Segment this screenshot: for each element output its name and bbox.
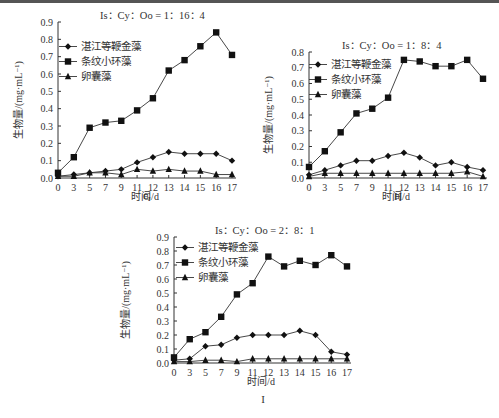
square-marker-icon [197, 43, 203, 49]
chart-i: 0.00.10.20.30.40.50.60.70.80.90357911121… [115, 205, 375, 418]
y-tick-label: 0.2 [157, 330, 170, 341]
square-marker-icon [344, 263, 350, 269]
x-tick-label: 3 [71, 182, 76, 193]
series-triangle [306, 168, 486, 179]
x-tick-label: 3 [322, 182, 327, 193]
triangle-marker-icon [315, 91, 321, 97]
triangle-marker-icon [134, 166, 140, 172]
square-marker-icon [182, 259, 188, 265]
triangle-marker-icon [297, 355, 303, 361]
diamond-marker-icon [480, 167, 486, 173]
triangle-marker-icon [218, 357, 224, 363]
square-marker-icon [249, 280, 255, 286]
x-tick-label: 0 [56, 182, 61, 193]
x-tick-label: 13 [279, 367, 289, 378]
legend-label: 条纹小环藻 [198, 256, 249, 268]
square-marker-icon [86, 125, 92, 131]
square-marker-icon [480, 76, 486, 82]
square-marker-icon [150, 95, 156, 101]
x-tick-label: 9 [119, 182, 124, 193]
diamond-marker-icon [369, 157, 375, 163]
x-tick-label: 15 [195, 182, 205, 193]
square-marker-icon [385, 94, 391, 100]
x-tick-label: 17 [478, 182, 488, 193]
series-line [58, 32, 232, 172]
series-diamond [171, 328, 350, 364]
square-marker-icon [312, 262, 318, 268]
diamond-marker-icon [353, 157, 359, 163]
x-tick-label: 7 [354, 182, 359, 193]
y-tick-label: 0.6 [292, 78, 305, 89]
x-tick-label: 5 [338, 182, 343, 193]
y-tick-label: 0.9 [41, 17, 54, 28]
square-marker-icon [65, 58, 71, 64]
square-marker-icon [328, 252, 334, 258]
diamond-marker-icon [385, 153, 391, 159]
x-tick-label: 15 [446, 182, 456, 193]
square-marker-icon [353, 110, 359, 116]
legend-label: 卵囊藻 [331, 88, 362, 100]
x-tick-label: 16 [211, 182, 221, 193]
triangle-marker-icon [102, 169, 108, 175]
square-marker-icon [432, 63, 438, 69]
triangle-marker-icon [385, 170, 391, 176]
y-tick-label: 0.0 [41, 173, 54, 184]
triangle-marker-icon [229, 171, 235, 177]
chart-g: 0.00.10.20.30.40.50.60.70.80.90357911121… [0, 0, 250, 210]
diamond-marker-icon [150, 154, 156, 160]
square-marker-icon [181, 57, 187, 63]
square-marker-icon [202, 329, 208, 335]
x-tick-label: 13 [415, 182, 425, 193]
legend-label: 湛江等鞭金藻 [81, 40, 142, 52]
x-tick-label: 16 [326, 367, 336, 378]
y-tick-label: 0.5 [41, 86, 54, 97]
y-tick-label: 0.3 [157, 316, 170, 327]
x-tick-label: 14 [295, 367, 305, 378]
diamond-marker-icon [249, 332, 255, 338]
diamond-marker-icon [337, 162, 343, 168]
y-tick-label: 0.6 [41, 69, 54, 80]
square-marker-icon [315, 76, 321, 82]
panel-label-i: I [248, 393, 278, 405]
y-tick-label: 0.5 [157, 288, 170, 299]
y-tick-label: 0.8 [41, 34, 54, 45]
x-tick-label: 7 [103, 182, 108, 193]
x-tick-label: 5 [87, 182, 92, 193]
triangle-marker-icon [432, 170, 438, 176]
y-tick-label: 0.2 [292, 141, 305, 152]
series-square [171, 252, 350, 361]
diamond-marker-icon [134, 159, 140, 165]
legend-label: 湛江等鞭金藻 [331, 58, 392, 70]
series-line [58, 169, 232, 176]
x-tick-label: 16 [462, 182, 472, 193]
x-axis-label: 时间/d [247, 375, 275, 387]
y-tick-label: 0.4 [41, 103, 54, 114]
triangle-marker-icon [344, 355, 350, 361]
square-marker-icon [464, 57, 470, 63]
chart-title: Is：Cy：Oo = 1：16：4 [100, 10, 206, 21]
legend-label: 卵囊藻 [198, 271, 229, 283]
square-marker-icon [448, 63, 454, 69]
square-marker-icon [134, 107, 140, 113]
diamond-marker-icon [297, 328, 303, 334]
triangle-marker-icon [353, 170, 359, 176]
y-tick-label: 0.6 [157, 274, 170, 285]
diamond-marker-icon [315, 61, 321, 67]
diamond-marker-icon [432, 162, 438, 168]
square-marker-icon [166, 67, 172, 73]
y-axis-label: 生物量/(mg·mL⁻¹) [119, 261, 132, 339]
panel-label-g: G [132, 190, 162, 202]
triangle-marker-icon [401, 170, 407, 176]
chart-title: Is：Cy：Oo = 1：8：4 [342, 40, 442, 51]
triangle-marker-icon [369, 170, 375, 176]
y-tick-label: 0.9 [157, 232, 170, 243]
chart-panel-g: 0.00.10.20.30.40.50.60.70.80.90357911121… [0, 0, 250, 210]
triangle-marker-icon [65, 73, 71, 79]
x-tick-label: 7 [219, 367, 224, 378]
y-tick-label: 0.1 [157, 344, 170, 355]
triangle-marker-icon [328, 355, 334, 361]
chart-title: Is：Cy：Oo = 2：8：1 [215, 225, 315, 236]
chart-panel-h: 0.00.10.20.30.40.50.60.70.80357911121314… [250, 0, 499, 210]
series-line [174, 255, 347, 357]
square-marker-icon [322, 148, 328, 154]
